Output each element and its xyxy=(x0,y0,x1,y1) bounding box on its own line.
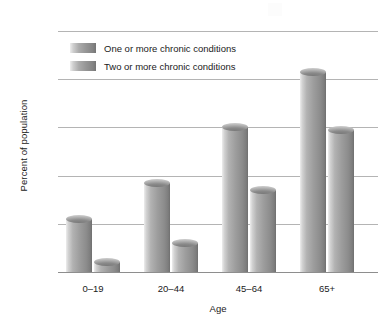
scan-artifact xyxy=(268,3,282,16)
bar-cap xyxy=(172,239,198,247)
bar xyxy=(328,130,354,272)
chart-container: Percent of population 020406080100 0–192… xyxy=(0,0,390,315)
bar-cap xyxy=(144,179,170,187)
legend-swatch-icon xyxy=(70,43,96,53)
x-tick-label: 20–44 xyxy=(131,283,211,294)
legend-item-one-or-more[interactable]: One or more chronic conditions xyxy=(70,40,236,56)
bar xyxy=(222,127,248,272)
x-tick-label: 45–64 xyxy=(209,283,289,294)
x-axis-title: Age xyxy=(58,303,378,314)
bar-cap xyxy=(222,123,248,131)
bar-group xyxy=(300,31,354,272)
bar-cap xyxy=(66,215,92,223)
x-tick-label: 65+ xyxy=(287,283,367,294)
bar xyxy=(300,72,326,272)
legend-item-label: One or more chronic conditions xyxy=(104,43,236,54)
x-tick-label: 0–19 xyxy=(53,283,133,294)
bar-cap xyxy=(328,126,354,134)
bar xyxy=(94,262,120,272)
bar xyxy=(172,243,198,272)
bar-cap xyxy=(300,68,326,76)
bar xyxy=(66,219,92,272)
bar-cap xyxy=(250,186,276,194)
legend-swatch-icon xyxy=(70,61,96,71)
legend-item-label: Two or more chronic conditions xyxy=(104,61,235,72)
bar xyxy=(250,190,276,272)
chart-legend: One or more chronic conditions Two or mo… xyxy=(70,40,236,76)
bar xyxy=(144,183,170,272)
gridline xyxy=(58,272,378,273)
y-axis-title: Percent of population xyxy=(18,76,29,216)
bar-cap xyxy=(94,258,120,266)
legend-item-two-or-more[interactable]: Two or more chronic conditions xyxy=(70,58,236,74)
